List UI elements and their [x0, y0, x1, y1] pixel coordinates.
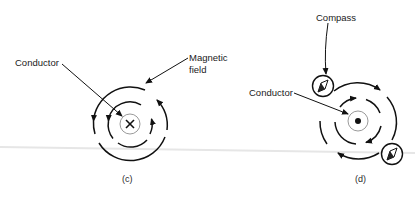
magnetic-field-label-line1: Magnetic	[189, 52, 228, 63]
dot-icon	[355, 118, 361, 124]
compass-icon	[313, 76, 334, 97]
panel-c-diagram	[62, 58, 188, 161]
cross-icon	[126, 120, 134, 128]
conductor-c-leader	[62, 64, 122, 116]
caption-d: (d)	[355, 174, 366, 184]
conductor-label-c: Conductor	[15, 57, 59, 68]
magnetic-field-label-line2: field	[189, 64, 206, 75]
diagram-canvas	[0, 0, 415, 202]
compass-label: Compass	[316, 12, 356, 23]
conductor-label-d: Conductor	[249, 87, 293, 98]
compass-icon	[382, 144, 403, 165]
panel-d-diagram	[294, 23, 403, 165]
scan-line	[0, 147, 415, 153]
compass-leader	[325, 23, 328, 74]
magnetic-field-leader	[146, 58, 188, 83]
caption-c: (c)	[122, 174, 133, 184]
